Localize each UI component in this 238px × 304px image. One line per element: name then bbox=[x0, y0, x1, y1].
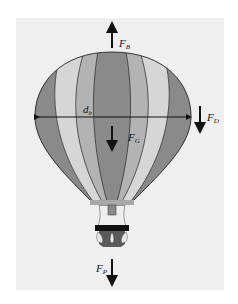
drag-force-label: FD bbox=[207, 112, 219, 125]
payload-force-label: FP bbox=[96, 263, 107, 276]
burner-tube bbox=[108, 205, 116, 215]
basket bbox=[95, 225, 129, 247]
envelope-skirt bbox=[90, 200, 134, 205]
gravity-force-label: FG bbox=[128, 132, 140, 145]
diameter-label: db bbox=[83, 104, 92, 117]
buoyancy-force-label: FB bbox=[119, 38, 130, 51]
balloon-envelope bbox=[30, 50, 200, 210]
